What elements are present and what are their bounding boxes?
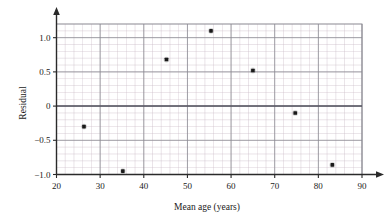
y-axis-title: Residual <box>18 86 28 120</box>
data-point <box>165 58 169 62</box>
residual-scatter-chart: −1.0−0.500.51.0 2030405060708090 Mean ag… <box>0 0 389 222</box>
data-point <box>331 163 335 167</box>
chart-canvas: −1.0−0.500.51.0 2030405060708090 Mean ag… <box>0 0 389 222</box>
y-tick-label: 1.0 <box>39 33 51 43</box>
x-tick-label: 30 <box>96 181 106 191</box>
x-axis-title: Mean age (years) <box>174 202 240 213</box>
x-tick-label: 60 <box>227 181 237 191</box>
y-tick-label: −0.5 <box>34 135 51 145</box>
y-tick-label: −1.0 <box>34 170 51 180</box>
data-point <box>251 69 255 73</box>
x-tick-label: 40 <box>139 181 149 191</box>
data-point <box>82 125 86 129</box>
x-tick-label: 20 <box>52 181 62 191</box>
y-tick-label: 0 <box>46 101 51 111</box>
x-tick-label: 50 <box>183 181 193 191</box>
data-point <box>293 111 297 115</box>
x-tick-label: 80 <box>314 181 324 191</box>
data-point <box>209 29 213 33</box>
data-point <box>121 169 125 173</box>
y-tick-label: 0.5 <box>39 67 51 77</box>
x-tick-label: 90 <box>358 181 368 191</box>
x-tick-label: 70 <box>270 181 280 191</box>
